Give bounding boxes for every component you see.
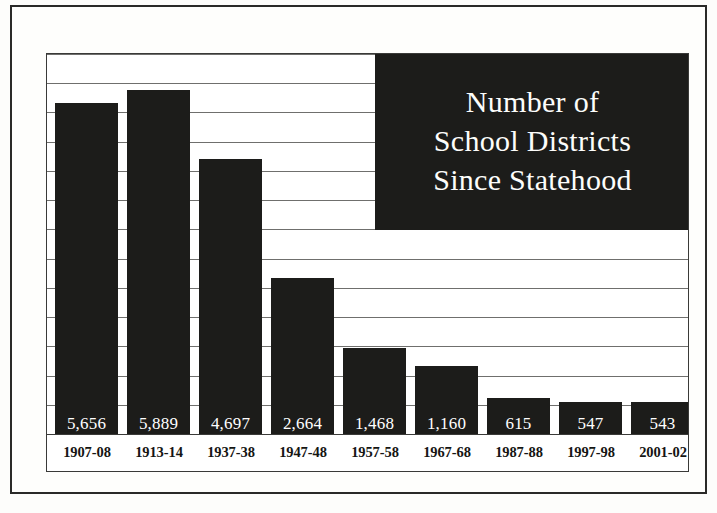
bar-value-label: 4,697 bbox=[199, 414, 262, 433]
x-axis-tick-label: 1997-98 bbox=[555, 443, 627, 461]
bar-value-label: 1,160 bbox=[415, 414, 478, 433]
bar[interactable]: 547 bbox=[559, 402, 622, 434]
figure-outer-frame: 5,656 5,889 4,697 2,664 bbox=[10, 5, 707, 494]
x-axis-label-strip: 1907-08 1913-14 1937-38 1947-48 1957-58 … bbox=[47, 434, 688, 471]
bar-value-label: 547 bbox=[559, 414, 622, 433]
chart-title-line-2: School Districts bbox=[434, 121, 631, 160]
bar[interactable]: 2,664 bbox=[271, 278, 334, 434]
bar[interactable]: 5,889 bbox=[127, 90, 190, 434]
bar-value-label: 5,656 bbox=[55, 414, 118, 433]
bar[interactable]: 5,656 bbox=[55, 103, 118, 434]
chart-plot-area: 5,656 5,889 4,697 2,664 bbox=[46, 53, 689, 472]
bar[interactable]: 543 bbox=[631, 402, 689, 434]
bar[interactable]: 1,468 bbox=[343, 348, 406, 434]
figure-page: 5,656 5,889 4,697 2,664 bbox=[0, 0, 717, 513]
x-axis-tick-label: 2001-02 bbox=[627, 443, 689, 461]
x-axis-tick-label: 1913-14 bbox=[123, 443, 195, 461]
x-axis-tick-label: 1937-38 bbox=[195, 443, 267, 461]
chart-title-block: Number of School Districts Since Stateho… bbox=[375, 54, 689, 230]
x-axis-tick-label: 1947-48 bbox=[267, 443, 339, 461]
x-axis-tick-label: 1957-58 bbox=[339, 443, 411, 461]
bar-value-label: 615 bbox=[487, 414, 550, 433]
bar-value-label: 543 bbox=[631, 414, 689, 433]
chart-title-line-1: Number of bbox=[466, 82, 600, 121]
x-axis-tick-label: 1907-08 bbox=[51, 443, 123, 461]
bar[interactable]: 4,697 bbox=[199, 159, 262, 434]
bar[interactable]: 1,160 bbox=[415, 366, 478, 434]
bar-value-label: 1,468 bbox=[343, 414, 406, 433]
bar[interactable]: 615 bbox=[487, 398, 550, 434]
x-axis-tick-label: 1967-68 bbox=[411, 443, 483, 461]
bar-value-label: 2,664 bbox=[271, 414, 334, 433]
bar-value-label: 5,889 bbox=[127, 414, 190, 433]
chart-title-line-3: Since Statehood bbox=[433, 160, 632, 199]
x-axis-tick-label: 1987-88 bbox=[483, 443, 555, 461]
